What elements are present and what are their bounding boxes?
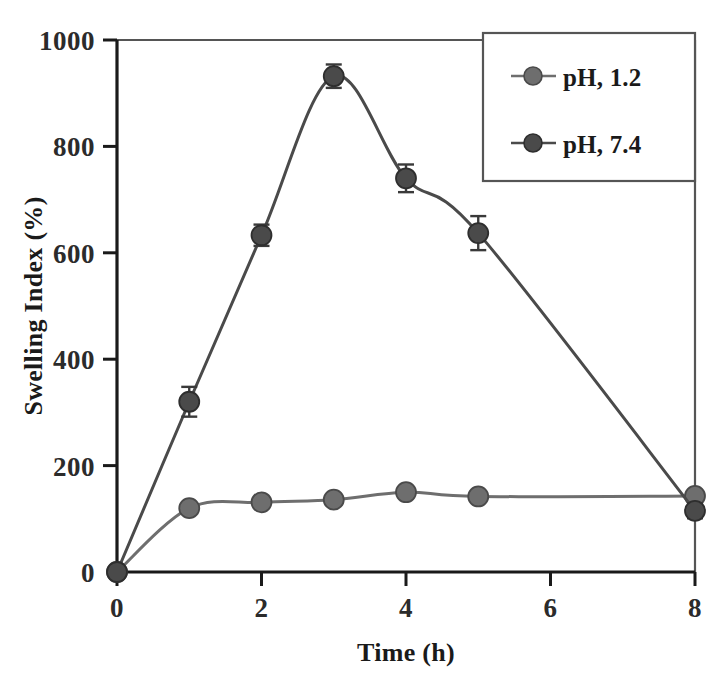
swelling-index-line-chart: 1000 800 600 400 200 0 0 2 4 6 8 Time (h… <box>0 0 728 678</box>
y-tick-label-800: 800 <box>53 132 95 162</box>
data-point-marker <box>179 498 199 518</box>
series-line-ph12 <box>117 492 695 572</box>
x-tick-label-4: 4 <box>399 593 413 623</box>
data-point-marker <box>396 168 416 188</box>
y-tick-label-400: 400 <box>53 345 95 375</box>
data-point-marker <box>252 225 272 245</box>
x-axis <box>117 572 695 586</box>
data-point-marker <box>324 490 344 510</box>
y-tick-label-600: 600 <box>53 239 95 269</box>
data-point-marker <box>468 223 488 243</box>
x-tick-labels: 0 2 4 6 8 <box>110 593 702 623</box>
series-ph12 <box>107 482 705 582</box>
legend: pH, 1.2 pH, 7.4 <box>483 33 695 181</box>
legend-box <box>483 33 695 181</box>
chart-figure: 1000 800 600 400 200 0 0 2 4 6 8 Time (h… <box>0 0 728 678</box>
legend-label-ph74: pH, 7.4 <box>563 131 642 158</box>
x-tick-label-6: 6 <box>544 593 558 623</box>
circle-marker-icon-ph12 <box>524 67 542 85</box>
x-tick-label-2: 2 <box>255 593 269 623</box>
data-point-marker <box>396 482 416 502</box>
data-point-marker <box>107 562 127 582</box>
y-tick-label-0: 0 <box>81 558 95 588</box>
data-point-marker <box>685 501 705 521</box>
data-point-marker <box>252 492 272 512</box>
data-point-marker <box>179 392 199 412</box>
x-axis-title: Time (h) <box>357 638 455 667</box>
circle-marker-icon-ph74 <box>524 134 542 152</box>
y-axis <box>103 40 117 572</box>
data-point-marker <box>468 486 488 506</box>
data-point-marker <box>324 66 344 86</box>
x-tick-label-0: 0 <box>110 593 124 623</box>
y-tick-label-200: 200 <box>53 452 95 482</box>
legend-label-ph12: pH, 1.2 <box>563 64 642 91</box>
x-tick-label-8: 8 <box>688 593 702 623</box>
y-axis-title: Swelling Index (%) <box>19 196 48 415</box>
y-tick-label-1000: 1000 <box>39 26 95 56</box>
